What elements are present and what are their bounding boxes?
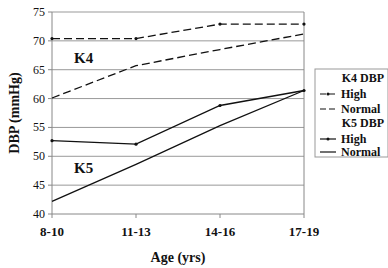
legend-k5-normal-label: Normal	[341, 145, 381, 159]
annotation-k5: K5	[74, 160, 93, 176]
x-axis-ticks: 8-1011-1314-1617-19	[40, 214, 320, 239]
x-axis-label: Age (yrs)	[151, 250, 206, 266]
data-point-marker	[134, 37, 137, 40]
y-tick-label: 75	[33, 5, 45, 19]
legend-k4-normal-label: Normal	[341, 102, 381, 116]
legend-k4-high-label: High	[341, 87, 367, 101]
y-tick-label: 65	[33, 63, 45, 77]
data-point-marker	[50, 139, 53, 142]
y-tick-label: 45	[33, 178, 45, 192]
y-tick-label: 40	[33, 207, 45, 221]
x-tick-label: 17-19	[289, 224, 320, 239]
series-line	[52, 24, 304, 38]
y-axis-ticks: 4045505560657075	[33, 5, 52, 221]
x-tick-label: 14-16	[205, 224, 236, 239]
legend: K4 DBP High Normal K5 DBP High Normal	[315, 69, 388, 159]
legend-k4-title: K4 DBP	[342, 71, 384, 85]
y-tick-label: 60	[33, 92, 45, 106]
data-point-marker	[302, 23, 305, 26]
x-tick-label: 11-13	[121, 224, 151, 239]
data-point-marker	[50, 37, 53, 40]
data-point-marker	[134, 143, 137, 146]
legend-k5-title: K5 DBP	[342, 116, 384, 130]
data-point-marker	[218, 23, 221, 26]
legend-k5-high-marker	[327, 138, 330, 141]
dbp-line-chart: 4045505560657075 8-1011-1314-1617-19 K4 …	[0, 0, 388, 268]
data-point-marker	[218, 104, 221, 107]
y-tick-label: 70	[33, 34, 45, 48]
y-tick-label: 50	[33, 149, 45, 163]
legend-k4-high-marker	[327, 93, 330, 96]
annotation-k4: K4	[74, 50, 94, 66]
x-tick-label: 8-10	[40, 224, 64, 239]
legend-k5-high-label: High	[341, 132, 367, 146]
y-tick-label: 55	[33, 120, 45, 134]
y-axis-label: DBP (mmHg)	[7, 72, 23, 154]
